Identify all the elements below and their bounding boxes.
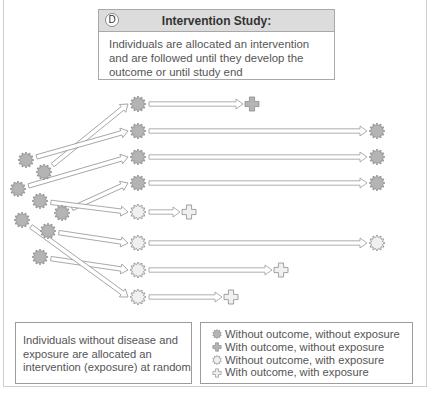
star-dark-icon xyxy=(32,193,48,209)
follow-up-row xyxy=(130,289,238,305)
arrow xyxy=(58,228,129,248)
star-light-icon xyxy=(130,262,146,278)
arrow xyxy=(149,292,222,302)
star-dark-icon xyxy=(10,181,26,197)
follow-up-row xyxy=(130,175,385,191)
cross-dark-icon xyxy=(245,97,259,111)
arrow xyxy=(149,126,367,136)
star-dark-icon xyxy=(369,123,385,139)
star-light-icon xyxy=(130,204,146,220)
follow-up-row xyxy=(130,123,385,139)
star-light-icon xyxy=(369,235,385,251)
star-dark-icon xyxy=(18,152,34,168)
star-dark-icon xyxy=(130,123,146,139)
star-dark-icon xyxy=(130,149,146,165)
follow-up-rows xyxy=(130,96,385,305)
legend-item: With outcome, without exposure xyxy=(212,341,412,354)
follow-up-row xyxy=(130,96,259,112)
star-dark-icon xyxy=(369,149,385,165)
cross-dark-icon xyxy=(212,342,222,352)
star-dark-icon xyxy=(369,175,385,191)
arrow xyxy=(149,152,367,162)
star-dark-icon xyxy=(54,205,70,221)
legend: Without outcome, without exposure With o… xyxy=(200,322,413,384)
legend-item: With outcome, with exposure xyxy=(212,366,412,379)
star-light-icon xyxy=(212,355,222,365)
arrow xyxy=(149,99,243,109)
legend-label: With outcome, with exposure xyxy=(225,366,369,379)
cross-light-icon xyxy=(212,368,222,378)
legend-label: With outcome, without exposure xyxy=(225,341,384,354)
star-dark-icon xyxy=(32,249,48,265)
arrow xyxy=(149,207,180,217)
legend-label: Without outcome, with exposure xyxy=(225,354,384,367)
cross-light-icon xyxy=(274,263,288,277)
arrow xyxy=(35,126,129,162)
star-light-icon xyxy=(130,289,146,305)
allocation-note-text: Individuals without disease and exposure… xyxy=(23,334,191,373)
arrow xyxy=(149,238,367,248)
legend-item: Without outcome, with exposure xyxy=(212,354,412,367)
follow-up-row xyxy=(130,204,196,220)
cross-light-icon xyxy=(182,205,196,219)
star-dark-icon xyxy=(130,175,146,191)
follow-up-row xyxy=(130,149,385,165)
legend-item: Without outcome, without exposure xyxy=(212,328,412,341)
arrow xyxy=(149,178,367,188)
star-dark-icon xyxy=(212,329,222,339)
star-dark-icon xyxy=(14,212,30,228)
arrow xyxy=(149,265,272,275)
star-light-icon xyxy=(130,235,146,251)
star-dark-icon xyxy=(130,96,146,112)
cross-light-icon xyxy=(224,290,238,304)
legend-label: Without outcome, without exposure xyxy=(225,328,400,341)
allocation-note: Individuals without disease and exposure… xyxy=(15,322,192,384)
follow-up-row xyxy=(130,262,288,278)
follow-up-row xyxy=(130,235,385,251)
